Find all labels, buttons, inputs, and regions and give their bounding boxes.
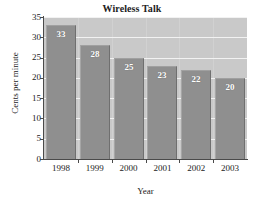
- bar-value-label: 28: [81, 49, 109, 59]
- panel-band: [213, 17, 214, 159]
- y-tick-mark: [40, 58, 43, 59]
- y-tick-label: 0: [19, 155, 41, 164]
- bar-value-label: 25: [115, 62, 143, 72]
- bar-value-label: 33: [47, 29, 75, 39]
- y-tick-mark: [40, 139, 43, 140]
- bar-2003: 20: [215, 78, 245, 159]
- bar-1999: 28: [80, 45, 110, 159]
- x-tick-mark: [78, 160, 79, 163]
- y-tick-label: 15: [19, 94, 41, 103]
- x-tick-mark: [112, 160, 113, 163]
- bar-value-label: 22: [182, 74, 210, 84]
- y-tick-mark: [40, 78, 43, 79]
- y-tick-label: 35: [19, 13, 41, 22]
- bar-2000: 25: [114, 58, 144, 159]
- bar-2002: 22: [181, 70, 211, 159]
- y-tick-label: 30: [19, 33, 41, 42]
- plot-area: 332825232220: [44, 17, 247, 159]
- panel-band: [112, 17, 113, 159]
- x-tick-label-2001: 2001: [145, 163, 179, 173]
- bar-1998: 33: [46, 25, 76, 159]
- y-tick-label: 25: [19, 53, 41, 62]
- bar-value-label: 23: [148, 70, 176, 80]
- x-tick-label-1998: 1998: [44, 163, 78, 173]
- y-tick-mark: [40, 37, 43, 38]
- y-axis-tick-labels: 05101520253035: [16, 0, 41, 207]
- panel-band: [78, 17, 79, 159]
- y-tick-mark: [40, 159, 43, 160]
- y-axis-line: [43, 16, 44, 160]
- x-tick-label-2000: 2000: [112, 163, 146, 173]
- y-tick-label: 20: [19, 73, 41, 82]
- x-tick-label-1999: 1999: [78, 163, 112, 173]
- y-tick-mark: [40, 98, 43, 99]
- x-tick-label-2002: 2002: [179, 163, 213, 173]
- x-axis-title: Year: [43, 186, 248, 196]
- x-tick-mark: [213, 160, 214, 163]
- y-tick-mark: [40, 17, 43, 18]
- y-tick-label: 5: [19, 134, 41, 143]
- x-tick-label-2003: 2003: [213, 163, 247, 173]
- x-tick-mark: [146, 160, 147, 163]
- bar-value-label: 20: [216, 82, 244, 92]
- bar-chart-figure: Wireless Talk Cents per minute 051015202…: [0, 0, 264, 207]
- bar-2001: 23: [147, 66, 177, 159]
- y-tick-label: 10: [19, 114, 41, 123]
- x-tick-mark: [179, 160, 180, 163]
- gridline: [44, 17, 247, 18]
- y-tick-mark: [40, 118, 43, 119]
